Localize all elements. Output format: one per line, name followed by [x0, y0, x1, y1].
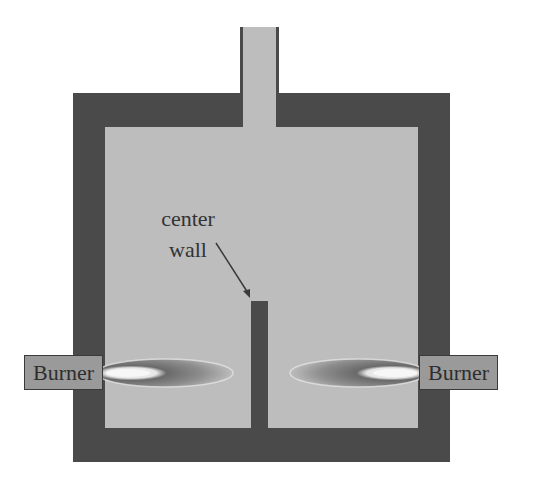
right-flame: [290, 359, 426, 387]
burner-left-label: Burner: [33, 360, 94, 386]
burner-right: Burner: [419, 355, 498, 390]
burner-right-label: Burner: [428, 360, 489, 386]
left-flame: [97, 359, 233, 387]
center-wall-label-line1: center: [148, 206, 228, 232]
center-wall-label-line2: wall: [148, 237, 228, 263]
flames-and-arrow: [0, 0, 551, 485]
burner-left: Burner: [24, 355, 103, 390]
